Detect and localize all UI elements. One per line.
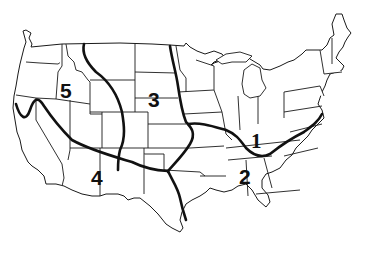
us-regions-map: 1 2 3 4 5: [0, 0, 367, 264]
us-outline: [13, 14, 351, 232]
region-label-3: 3: [148, 89, 160, 110]
region-label-4: 4: [91, 167, 103, 188]
us-map-svg: [0, 0, 367, 264]
region-label-1: 1: [251, 131, 262, 152]
region-label-2: 2: [239, 166, 251, 187]
region-label-5: 5: [60, 80, 72, 101]
